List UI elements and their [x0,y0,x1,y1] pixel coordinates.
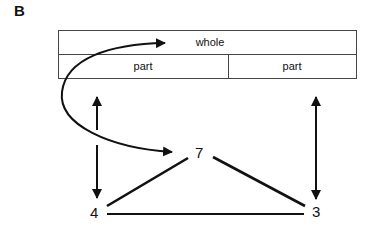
bond-whole-number: 7 [195,145,203,160]
bond-part-number-left: 4 [90,205,98,220]
bond-line-right [213,157,305,206]
bond-part-number-right: 3 [312,204,320,219]
curved-arrow [62,43,172,152]
diagram-lines [0,0,373,227]
bond-line-left [107,158,188,206]
